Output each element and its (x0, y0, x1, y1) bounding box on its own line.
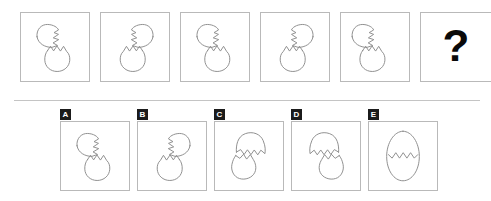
whole-egg-with-zigzag-crack-icon (369, 122, 437, 190)
cracked-egg-top-shell-left-icon (21, 13, 89, 81)
cracked-egg-top-shell-left-icon (181, 13, 249, 81)
option-cell-c[interactable] (214, 121, 284, 191)
cracked-egg-top-shell-right-icon (138, 122, 206, 190)
option-d[interactable]: D (291, 118, 361, 191)
option-badge-e: E (368, 109, 379, 120)
inverted-egg-dome-top-right-icon (215, 122, 283, 190)
option-cell-a[interactable] (60, 121, 130, 191)
option-badge-d: D (291, 109, 302, 120)
option-e[interactable]: E (368, 118, 438, 191)
sequence-cell-5[interactable] (340, 12, 410, 82)
option-cell-b[interactable] (137, 121, 207, 191)
option-cell-d[interactable] (291, 121, 361, 191)
cracked-egg-top-shell-right-icon (261, 13, 329, 81)
cracked-egg-top-shell-right-icon (101, 13, 169, 81)
sequence-cell-6-answer-slot[interactable]: ? (420, 12, 491, 82)
cracked-egg-top-shell-left-icon (61, 122, 129, 190)
options-row: A B C (60, 118, 438, 191)
inverted-egg-dome-top-left-icon (292, 122, 360, 190)
option-a[interactable]: A (60, 118, 130, 191)
puzzle-canvas: ? A B (0, 0, 491, 201)
sequence-cell-4[interactable] (260, 12, 330, 82)
option-badge-b: B (137, 109, 148, 120)
sequence-row: ? (20, 12, 491, 82)
divider (14, 100, 480, 101)
cracked-egg-top-shell-left-icon (341, 13, 409, 81)
sequence-cell-2[interactable] (100, 12, 170, 82)
sequence-cell-3[interactable] (180, 12, 250, 82)
sequence-cell-1[interactable] (20, 12, 90, 82)
option-cell-e[interactable] (368, 121, 438, 191)
question-mark-icon: ? (421, 13, 491, 81)
option-c[interactable]: C (214, 118, 284, 191)
option-b[interactable]: B (137, 118, 207, 191)
option-badge-c: C (214, 109, 225, 120)
option-badge-a: A (60, 109, 71, 120)
